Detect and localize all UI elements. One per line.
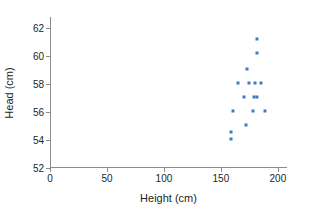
- y-tick-60: [46, 56, 51, 57]
- data-point: [256, 52, 259, 55]
- x-tick-label-0: 0: [47, 173, 53, 184]
- data-point: [230, 137, 233, 140]
- data-point: [246, 67, 249, 70]
- x-tick-label-150: 150: [213, 173, 230, 184]
- x-tick-label-200: 200: [270, 173, 287, 184]
- x-tick-50: [107, 167, 108, 172]
- y-tick-58: [46, 84, 51, 85]
- data-point: [230, 130, 233, 133]
- y-tick-54: [46, 140, 51, 141]
- scatter-plot-figure: Head (cm) 525456586062 050100150200 Heig…: [0, 0, 309, 212]
- y-tick-label-54: 54: [33, 135, 44, 146]
- y-tick-label-62: 62: [33, 23, 44, 34]
- data-point: [264, 109, 267, 112]
- data-point: [256, 38, 259, 41]
- data-point: [237, 81, 240, 84]
- data-point: [251, 109, 254, 112]
- y-tick-label-52: 52: [33, 163, 44, 174]
- y-axis-title: Head (cm): [2, 17, 16, 168]
- data-point: [259, 81, 262, 84]
- y-tick-label-58: 58: [33, 79, 44, 90]
- y-tick-56: [46, 112, 51, 113]
- x-tick-200: [278, 167, 279, 172]
- x-tick-0: [50, 167, 51, 172]
- y-tick-62: [46, 28, 51, 29]
- y-axis-title-label: Head (cm): [3, 67, 15, 118]
- x-axis-line: [50, 167, 287, 168]
- y-tick-label-60: 60: [33, 51, 44, 62]
- data-point: [244, 123, 247, 126]
- data-point: [232, 109, 235, 112]
- x-tick-label-50: 50: [101, 173, 112, 184]
- data-point: [254, 81, 257, 84]
- x-tick-150: [221, 167, 222, 172]
- data-point: [248, 81, 251, 84]
- x-tick-100: [164, 167, 165, 172]
- data-point: [256, 95, 259, 98]
- plot-area: 525456586062 050100150200: [50, 17, 287, 168]
- x-axis-title-label: Height (cm): [140, 192, 197, 204]
- x-axis-title: Height (cm): [50, 192, 287, 204]
- y-axis-line: [50, 17, 51, 168]
- x-tick-label-100: 100: [156, 173, 173, 184]
- data-point: [242, 95, 245, 98]
- y-tick-label-56: 56: [33, 107, 44, 118]
